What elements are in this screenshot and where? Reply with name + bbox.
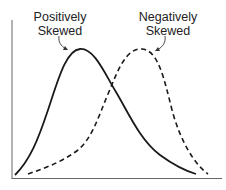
positive-label-line1: Positively xyxy=(28,10,92,24)
positively-skewed-label: Positively Skewed xyxy=(28,10,92,38)
positively-skewed-curve xyxy=(15,49,196,175)
positive-label-line2: Skewed xyxy=(28,24,92,38)
negatively-skewed-curve xyxy=(28,49,208,174)
negative-label-line1: Negatively xyxy=(132,10,204,24)
negative-label-line2: Skewed xyxy=(132,24,204,38)
skewness-diagram: Positively Skewed Negatively Skewed xyxy=(0,0,226,190)
negatively-skewed-label: Negatively Skewed xyxy=(132,10,204,38)
